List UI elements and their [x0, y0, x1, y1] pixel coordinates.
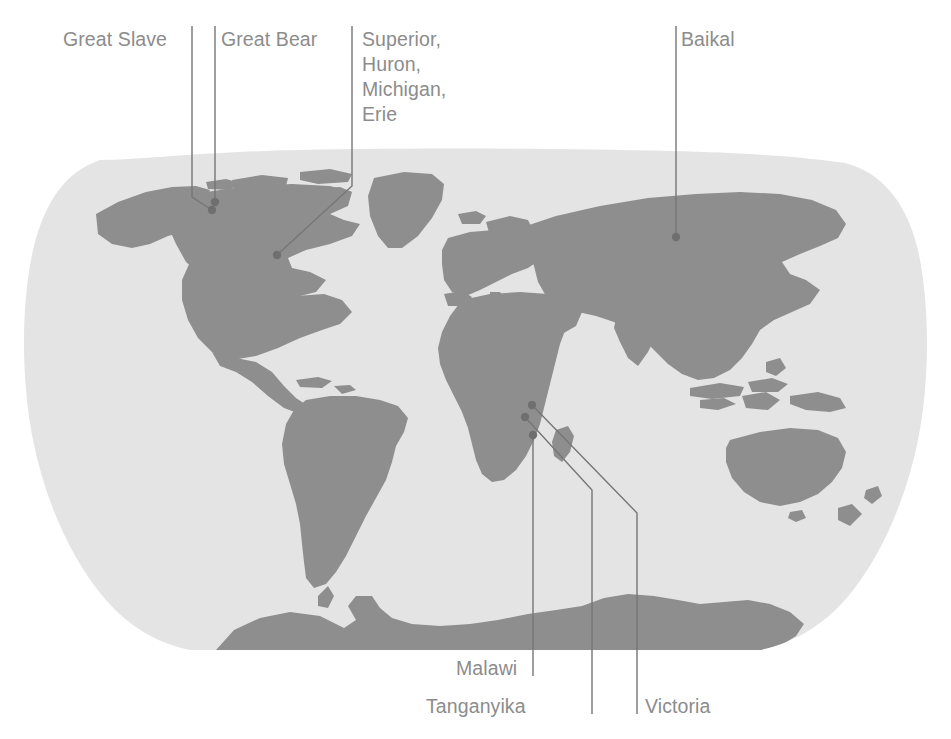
label-malawi: Malawi [456, 656, 517, 681]
marker-tanganyika [521, 413, 529, 421]
label-victoria: Victoria [645, 694, 710, 719]
label-great-lakes: Superior, Huron, Michigan, Erie [362, 27, 446, 127]
marker-malawi [529, 431, 537, 439]
marker-great-lakes [273, 251, 281, 259]
marker-victoria [528, 401, 536, 409]
marker-baikal [672, 233, 680, 241]
world-map-figure: Great Slave Great Bear Superior, Huron, … [0, 0, 951, 739]
label-baikal: Baikal [681, 27, 735, 52]
label-great-bear: Great Bear [221, 27, 317, 52]
marker-great-slave [208, 206, 216, 214]
label-tanganyika: Tanganyika [426, 694, 526, 719]
map-canvas [0, 0, 951, 739]
label-great-slave: Great Slave [63, 27, 167, 52]
marker-great-bear [211, 198, 219, 206]
